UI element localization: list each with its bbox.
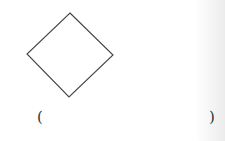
diamond-figure — [0, 0, 225, 141]
left-parenthesis: ( — [37, 108, 43, 126]
right-parenthesis: ) — [209, 108, 215, 126]
